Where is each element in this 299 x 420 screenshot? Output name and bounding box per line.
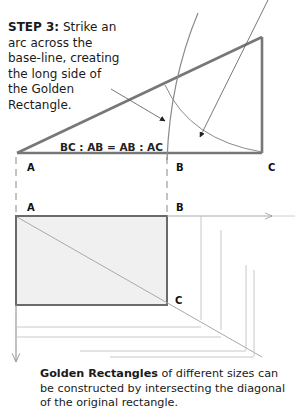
ratio-equation: BC : AB = AB : AC [60, 141, 163, 153]
construction-arc [167, 13, 198, 160]
label-c-lower: C [175, 295, 182, 306]
label-b-lower: B [176, 202, 184, 213]
step-3-instruction: STEP 3: Strike an arc across the base-li… [8, 20, 120, 113]
label-a-lower: A [27, 202, 35, 213]
pointer-arrow-top [200, 0, 268, 137]
diagonal-arc [165, 85, 262, 152]
step-heading: STEP 3: [8, 20, 59, 34]
label-c-upper: C [268, 162, 275, 173]
bottom-caption: Golden Rectangles of different sizes can… [40, 367, 295, 411]
caption-bold: Golden Rectangles [40, 367, 158, 380]
label-a-upper: A [27, 162, 35, 173]
golden-rectangle [16, 216, 262, 357]
label-b-upper: B [176, 162, 184, 173]
